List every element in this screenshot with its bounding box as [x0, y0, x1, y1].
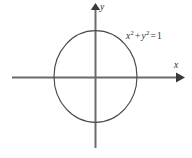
x-axis-label: x	[174, 60, 178, 70]
equation-right-hand-side: 1	[157, 31, 162, 41]
y-axis-arrowhead-icon	[91, 3, 100, 10]
graph-canvas	[0, 0, 192, 158]
equation-annotation: x2+y2=1	[126, 31, 162, 41]
x-axis-arrowhead-icon	[176, 73, 185, 83]
coordinate-plane-figure: y x x2+y2=1	[0, 0, 192, 158]
y-axis-label: y	[100, 2, 104, 12]
equation-equals-sign: =	[149, 31, 157, 41]
